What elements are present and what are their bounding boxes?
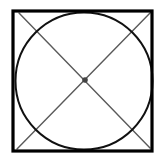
geometry-diagram xyxy=(0,0,160,164)
center-point xyxy=(82,77,88,83)
background xyxy=(0,0,160,164)
